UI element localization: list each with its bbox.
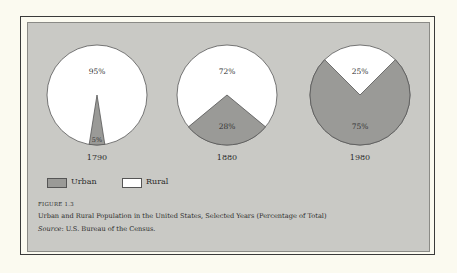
rural-pct-label: 95% (89, 67, 106, 76)
pie-1980: 75%25% (310, 45, 410, 145)
source-text: : U.S. Bureau of the Census. (61, 225, 155, 233)
rural-pct-label: 25% (352, 67, 369, 76)
legend-label-urban: Urban (71, 177, 97, 186)
legend-label-rural: Rural (146, 177, 168, 186)
figure-label: FIGURE 1.3 (38, 201, 74, 207)
urban-pct-label: 28% (219, 122, 236, 131)
figure-title: Urban and Rural Population in the United… (38, 212, 327, 220)
rural-pct-label: 72% (219, 67, 236, 76)
pie-1880: 28%72% (177, 45, 277, 145)
year-label-1880: 1880 (197, 153, 257, 162)
figure-source: Source: U.S. Bureau of the Census. (38, 225, 155, 233)
year-label-1790: 1790 (67, 153, 127, 162)
pie-1790: 5%95% (47, 45, 147, 145)
urban-pct-label: 5% (92, 136, 102, 144)
legend-swatch-rural (122, 178, 142, 188)
year-label-1980: 1980 (330, 153, 390, 162)
legend-swatch-urban (47, 178, 67, 188)
urban-pct-label: 75% (352, 122, 369, 131)
source-prefix: Source (38, 225, 61, 233)
